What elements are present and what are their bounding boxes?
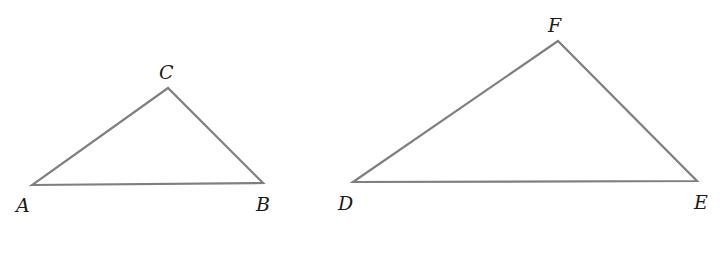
vertex-label-b: B xyxy=(255,193,270,215)
vertex-label-f: F xyxy=(547,14,562,36)
similar-triangles-diagram: A B C D E F xyxy=(0,0,722,262)
triangle-def-outline xyxy=(353,41,697,182)
vertex-label-c: C xyxy=(159,61,174,83)
vertex-label-d: D xyxy=(337,192,353,214)
vertex-label-a: A xyxy=(14,194,30,216)
vertex-label-e: E xyxy=(693,191,708,213)
triangle-abc-outline xyxy=(32,88,263,185)
triangle-def: D E F xyxy=(337,14,708,214)
triangle-abc: A B C xyxy=(14,61,270,216)
